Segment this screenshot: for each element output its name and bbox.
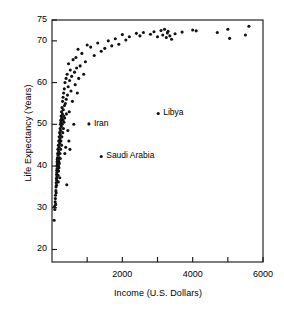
data-point bbox=[170, 38, 173, 41]
data-point bbox=[93, 54, 96, 57]
y-tick-label: 20 bbox=[25, 243, 47, 253]
data-point bbox=[58, 152, 61, 155]
data-point bbox=[174, 32, 177, 35]
data-point bbox=[65, 77, 68, 80]
data-point bbox=[59, 139, 62, 142]
data-point bbox=[135, 32, 138, 35]
data-point bbox=[107, 39, 110, 42]
data-point bbox=[62, 108, 65, 111]
data-point bbox=[110, 44, 113, 47]
data-point bbox=[74, 56, 77, 59]
data-point bbox=[65, 183, 68, 186]
data-point bbox=[55, 184, 58, 187]
data-point bbox=[57, 166, 60, 169]
data-point bbox=[191, 28, 194, 31]
data-point bbox=[63, 117, 66, 120]
data-point bbox=[63, 152, 66, 155]
plot-frame bbox=[52, 20, 263, 262]
data-point bbox=[76, 48, 79, 51]
data-point bbox=[61, 131, 64, 134]
data-point bbox=[156, 35, 159, 38]
data-point bbox=[73, 71, 76, 74]
data-point bbox=[82, 73, 85, 76]
data-point bbox=[76, 91, 79, 94]
data-point bbox=[53, 219, 56, 222]
data-point bbox=[244, 33, 247, 36]
data-point bbox=[67, 85, 70, 88]
data-point bbox=[114, 37, 117, 40]
data-point bbox=[67, 139, 70, 142]
data-point bbox=[74, 83, 77, 86]
y-tick-label: 30 bbox=[25, 202, 47, 212]
data-point bbox=[152, 30, 155, 33]
data-point bbox=[64, 102, 67, 105]
data-point bbox=[75, 66, 78, 69]
data-point bbox=[128, 35, 131, 38]
data-point bbox=[54, 203, 57, 206]
y-tick-label: 75 bbox=[25, 14, 47, 24]
data-point bbox=[59, 148, 62, 151]
data-point bbox=[65, 112, 68, 115]
y-tick-label: 40 bbox=[25, 160, 47, 170]
annotated-data-point bbox=[100, 155, 103, 158]
data-point bbox=[60, 144, 63, 147]
data-point bbox=[96, 41, 99, 44]
data-point bbox=[64, 146, 67, 149]
data-point bbox=[103, 47, 106, 50]
data-point-group bbox=[53, 25, 251, 222]
data-point bbox=[57, 169, 60, 172]
data-point bbox=[66, 129, 69, 132]
data-point bbox=[149, 33, 152, 36]
data-point bbox=[65, 98, 68, 101]
data-point bbox=[168, 34, 171, 37]
data-point bbox=[57, 180, 60, 183]
data-point bbox=[77, 77, 80, 80]
data-point bbox=[142, 31, 145, 34]
data-point bbox=[117, 43, 120, 46]
data-point bbox=[69, 89, 72, 92]
data-point bbox=[61, 100, 64, 103]
data-point bbox=[60, 135, 63, 138]
data-point bbox=[66, 94, 69, 97]
data-point bbox=[71, 100, 74, 103]
data-point bbox=[68, 79, 71, 82]
data-point bbox=[54, 197, 57, 200]
data-point bbox=[159, 29, 162, 32]
data-point bbox=[72, 123, 75, 126]
data-point bbox=[226, 28, 229, 31]
data-point bbox=[121, 33, 124, 36]
data-point bbox=[58, 162, 61, 165]
data-point bbox=[216, 31, 219, 34]
data-point bbox=[58, 176, 61, 179]
data-point bbox=[72, 58, 75, 61]
data-point bbox=[165, 36, 168, 39]
data-point bbox=[63, 81, 66, 84]
y-tick-label: 50 bbox=[25, 118, 47, 128]
annotation-label: Iran bbox=[94, 118, 109, 128]
annotation-label: Saudi Arabia bbox=[106, 150, 154, 160]
data-point bbox=[181, 31, 184, 34]
data-point bbox=[79, 64, 82, 67]
data-point bbox=[100, 50, 103, 53]
data-point bbox=[84, 60, 87, 63]
y-tick-marks bbox=[52, 20, 57, 249]
data-point bbox=[228, 37, 231, 40]
data-point bbox=[86, 43, 89, 46]
data-point bbox=[66, 73, 69, 76]
data-point bbox=[247, 25, 250, 28]
scatter-plot-figure: Life Expectancy (Years) Income (U.S. Dol… bbox=[0, 0, 284, 315]
annotated-data-point bbox=[87, 122, 90, 125]
data-point bbox=[69, 69, 72, 72]
data-point bbox=[161, 33, 164, 36]
data-point bbox=[195, 29, 198, 32]
data-point bbox=[67, 62, 70, 65]
data-point bbox=[53, 208, 56, 211]
annotated-data-point bbox=[157, 112, 160, 115]
data-point bbox=[62, 127, 65, 130]
data-point bbox=[80, 52, 83, 55]
data-point bbox=[167, 30, 170, 33]
data-point bbox=[70, 75, 73, 78]
data-point bbox=[68, 148, 71, 151]
data-point bbox=[124, 38, 127, 41]
x-tick-label: 2000 bbox=[102, 269, 142, 279]
